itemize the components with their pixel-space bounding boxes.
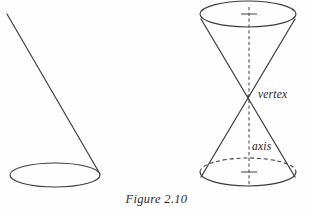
left-generator-line — [7, 14, 100, 174]
axis-label: axis — [252, 140, 271, 152]
vertex-label: vertex — [258, 88, 287, 100]
figure-container: vertex axis Figure 2.10 — [0, 0, 313, 213]
figure-caption: Figure 2.10 — [0, 192, 313, 207]
bottom-rim-back-arc-dashed — [200, 158, 296, 172]
figure-drawing — [0, 0, 313, 213]
left-cone-diagram — [7, 14, 100, 187]
left-base-ellipse — [10, 163, 100, 187]
vertex-point — [247, 95, 249, 97]
bottom-rim-front-arc — [200, 172, 296, 186]
